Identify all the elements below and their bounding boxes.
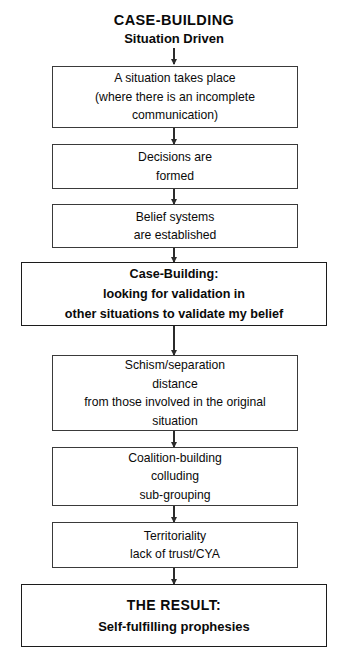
connector-arrow-situation-to-decisions [173, 128, 175, 144]
flow-node-situation-line-2: (where there is an incomplete [95, 88, 255, 107]
connector-arrow-title-to-situation [173, 48, 175, 64]
flow-node-territoriality: Territoriality lack of trust/CYA [52, 522, 298, 568]
flow-node-coalition-line-2: colluding [151, 467, 199, 486]
flow-node-schism-line-4: situation [152, 412, 197, 431]
flow-node-situation-line-3: communication) [132, 106, 218, 125]
flow-node-result-line-1: THE RESULT: [127, 595, 221, 616]
flow-node-schism-line-1: Schism/separation [125, 356, 225, 375]
connector-arrow-decisions-to-belief [173, 189, 175, 204]
flow-node-schism: Schism/separation distance from those in… [52, 355, 298, 431]
flow-node-coalition-line-3: sub-grouping [139, 486, 210, 505]
flow-node-territoriality-line-2: lack of trust/CYA [130, 545, 220, 564]
connector-arrow-territoriality-to-result [173, 568, 175, 584]
flow-node-belief-systems: Belief systems are established [52, 204, 298, 248]
flow-node-case-building-line-2: looking for validation in [103, 284, 245, 304]
flow-node-decisions-line-2: formed [156, 167, 194, 186]
diagram-title: CASE-BUILDING Situation Driven [0, 11, 348, 48]
title-main-text: CASE-BUILDING [0, 11, 348, 29]
flow-node-schism-line-2: distance [152, 375, 197, 394]
flow-node-decisions-line-1: Decisions are [138, 148, 212, 167]
title-sub-text: Situation Driven [0, 30, 348, 48]
flow-node-case-building-line-3: other situations to validate my belief [65, 304, 283, 324]
flow-node-coalition: Coalition-building colluding sub-groupin… [52, 447, 298, 506]
connector-arrow-coalition-to-territoriality [173, 506, 175, 522]
flow-node-decisions: Decisions are formed [52, 144, 298, 189]
flow-node-belief-systems-line-2: are established [134, 226, 217, 245]
connector-arrow-schism-to-coalition [173, 431, 175, 447]
flow-node-territoriality-line-1: Territoriality [144, 527, 206, 546]
flow-node-situation: A situation takes place (where there is … [52, 66, 298, 128]
connector-arrow-belief-to-case-building [173, 248, 175, 262]
flow-node-case-building-line-1: Case-Building: [130, 264, 219, 284]
flow-node-result: THE RESULT: Self-fulfilling prophesies [21, 584, 327, 647]
connector-arrow-case-building-to-schism [173, 326, 175, 355]
flow-node-coalition-line-1: Coalition-building [128, 449, 222, 468]
flow-node-result-line-2: Self-fulfilling prophesies [98, 616, 250, 637]
flow-node-situation-line-1: A situation takes place [114, 69, 235, 88]
flow-node-schism-line-3: from those involved in the original [84, 393, 266, 412]
flow-node-case-building: Case-Building: looking for validation in… [21, 262, 327, 326]
flow-node-belief-systems-line-1: Belief systems [136, 208, 215, 227]
case-building-flowchart: CASE-BUILDING Situation Driven A situati… [0, 0, 348, 656]
